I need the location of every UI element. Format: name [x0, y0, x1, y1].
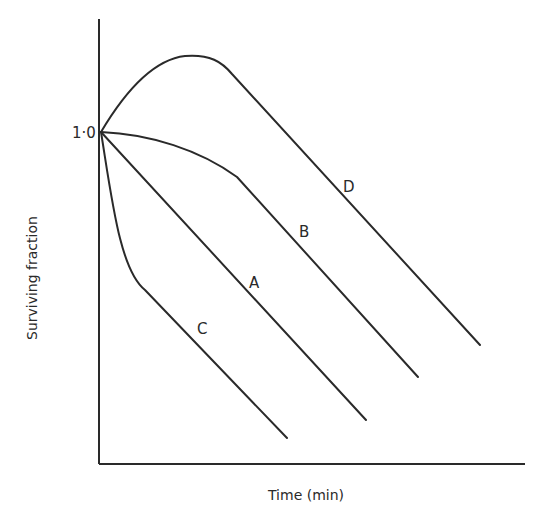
- curve-label-c: C: [197, 320, 207, 338]
- survival-chart: 1·0 D B A C Time (min) Surviving fractio…: [0, 0, 540, 513]
- curve-label-a: A: [249, 274, 260, 292]
- curve-b: [101, 132, 418, 377]
- y-tick-label: 1·0: [72, 124, 96, 142]
- curve-d: [101, 56, 480, 345]
- x-axis-label: Time (min): [267, 487, 344, 503]
- y-axis-label: Surviving fraction: [24, 216, 40, 340]
- curve-label-d: D: [343, 178, 355, 196]
- curve-label-b: B: [299, 223, 309, 241]
